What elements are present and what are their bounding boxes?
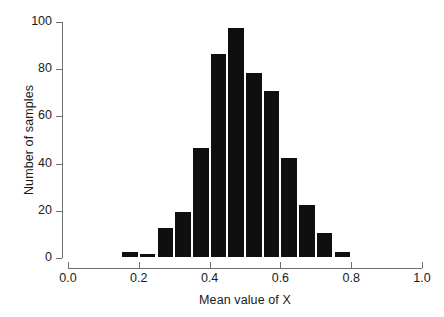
histogram-bar bbox=[227, 27, 245, 258]
x-axis-line bbox=[68, 268, 422, 269]
x-tick bbox=[139, 262, 140, 268]
histogram-bar bbox=[139, 253, 157, 258]
y-tick bbox=[56, 211, 62, 212]
x-tick-label: 0.2 bbox=[119, 271, 159, 285]
histogram-bar bbox=[298, 204, 316, 258]
x-axis-label: Mean value of X bbox=[68, 293, 422, 307]
histogram-bar bbox=[121, 251, 139, 258]
histogram-bar bbox=[316, 232, 334, 258]
x-tick-label: 0.0 bbox=[48, 271, 88, 285]
histogram-figure: Number of samples 020406080100 0.00.20.4… bbox=[0, 0, 444, 317]
x-tick bbox=[68, 262, 69, 268]
y-axis-line bbox=[62, 22, 63, 258]
y-tick bbox=[56, 116, 62, 117]
histogram-bar bbox=[334, 251, 352, 258]
x-tick bbox=[210, 262, 211, 268]
y-tick-label: 40 bbox=[16, 156, 52, 170]
y-tick-label: 0 bbox=[16, 250, 52, 264]
y-tick-label: 20 bbox=[16, 203, 52, 217]
y-axis-label: Number of samples bbox=[20, 22, 38, 258]
histogram-bar bbox=[157, 227, 175, 258]
x-tick-label: 0.4 bbox=[190, 271, 230, 285]
histogram-bar bbox=[263, 90, 281, 258]
x-tick-label: 1.0 bbox=[402, 271, 442, 285]
x-tick bbox=[351, 262, 352, 268]
histogram-bar bbox=[174, 211, 192, 258]
x-tick-label: 0.6 bbox=[260, 271, 300, 285]
y-tick bbox=[56, 164, 62, 165]
y-tick-label: 100 bbox=[16, 14, 52, 28]
histogram-bar bbox=[280, 157, 298, 258]
plot-area bbox=[68, 22, 422, 258]
x-tick bbox=[280, 262, 281, 268]
histogram-bar bbox=[210, 53, 228, 258]
y-tick bbox=[56, 69, 62, 70]
y-tick bbox=[56, 258, 62, 259]
y-tick-label: 60 bbox=[16, 108, 52, 122]
x-tick bbox=[422, 262, 423, 268]
y-tick-label: 80 bbox=[16, 61, 52, 75]
y-tick bbox=[56, 22, 62, 23]
histogram-bar bbox=[192, 147, 210, 258]
x-tick-label: 0.8 bbox=[331, 271, 371, 285]
histogram-bar bbox=[245, 72, 263, 258]
